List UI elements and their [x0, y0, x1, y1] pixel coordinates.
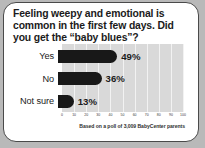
bar-track: 49%: [58, 45, 192, 68]
bar-value-label: 49%: [121, 51, 140, 62]
source-note: Based on a poll of 3,009 BabyCenter pare…: [13, 123, 185, 129]
poll-card: Feeling weepy and emotional is common in…: [3, 2, 199, 142]
bar-track: 13%: [58, 90, 192, 113]
x-axis: 0102030405060708090100: [62, 113, 183, 122]
bar-not-sure: [58, 95, 74, 108]
bar-row: No 36%: [13, 68, 192, 91]
bar-no: [58, 72, 102, 85]
x-axis-tick: 10: [72, 113, 76, 117]
x-axis-tick: 30: [96, 113, 100, 117]
x-axis-tick: 60: [133, 113, 137, 117]
category-label: No: [13, 74, 58, 84]
x-axis-tick: 40: [108, 113, 112, 117]
x-axis-tick: 50: [121, 113, 125, 117]
poll-question: Feeling weepy and emotional is common in…: [13, 8, 189, 43]
x-axis-tick: 20: [84, 113, 88, 117]
category-label: Not sure: [13, 96, 58, 106]
x-axis-tick: 80: [157, 113, 161, 117]
bar-row: Not sure 13%: [13, 90, 192, 113]
bar-value-label: 36%: [106, 73, 125, 84]
x-axis-tick: 0: [61, 113, 63, 117]
x-axis-tick: 90: [169, 113, 173, 117]
category-label: Yes: [13, 51, 58, 61]
x-axis-tick: 70: [145, 113, 149, 117]
bar-value-label: 13%: [78, 96, 97, 107]
bar-row: Yes 49%: [13, 45, 192, 68]
bar-track: 36%: [58, 68, 192, 91]
bar-yes: [58, 50, 117, 63]
bar-chart: Yes 49% No 36% Not sure 13%: [13, 44, 192, 138]
x-axis-tick: 100: [180, 113, 186, 117]
bar-rows: Yes 49% No 36% Not sure 13%: [13, 44, 192, 112]
